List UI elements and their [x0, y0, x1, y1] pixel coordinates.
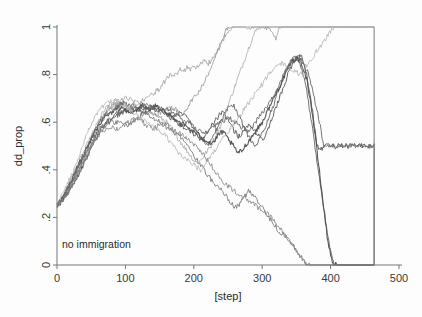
series-line-run-7 — [57, 57, 374, 265]
line-chart: 0.2.4.6.810100200300400500 dd_prop [step… — [0, 0, 422, 317]
x-tick-label: 0 — [54, 272, 60, 284]
x-tick-label: 300 — [253, 272, 271, 284]
y-tick-label: 1 — [40, 24, 52, 30]
y-tick-label: .6 — [40, 118, 52, 127]
x-tick-label: 500 — [390, 272, 408, 284]
series-layer — [57, 27, 374, 265]
x-tick-label: 200 — [185, 272, 203, 284]
y-tick-label: .2 — [40, 213, 52, 222]
y-tick-label: .4 — [40, 165, 52, 174]
plot-annotation: no immigration — [62, 238, 131, 250]
y-tick-label: 0 — [40, 262, 52, 268]
x-tick-label: 100 — [116, 272, 134, 284]
x-axis-title: [step] — [215, 290, 242, 302]
figure-container: 0.2.4.6.810100200300400500 dd_prop [step… — [0, 0, 422, 317]
y-axis-title: dd_prop — [12, 126, 24, 166]
x-tick-label: 400 — [321, 272, 339, 284]
y-tick-label: .8 — [40, 70, 52, 79]
axis-layer — [53, 25, 402, 269]
